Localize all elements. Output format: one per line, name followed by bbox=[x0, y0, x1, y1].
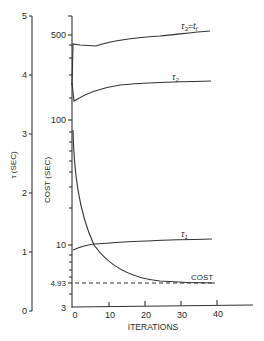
x-axis-title: ITERATIONS bbox=[128, 322, 179, 332]
cost-tick-4-93: 4.93 bbox=[50, 279, 66, 288]
series-tau3-curve bbox=[72, 31, 210, 85]
x-tick-20: 20 bbox=[141, 310, 151, 320]
series-label-cost: COST bbox=[191, 273, 213, 282]
tau-tick-2: 2 bbox=[22, 188, 27, 198]
cost-tick-500: 500 bbox=[51, 30, 66, 40]
tau-tick-0: 0 bbox=[22, 306, 27, 316]
x-tick-10: 10 bbox=[105, 310, 115, 320]
tau-tick-5: 5 bbox=[22, 11, 27, 21]
cost-tick-100: 100 bbox=[51, 115, 66, 125]
x-axis bbox=[72, 300, 253, 307]
cost-axis-title: COST (SEC) bbox=[43, 157, 52, 203]
series-cost-curve bbox=[73, 130, 215, 283]
x-tick-0: 0 bbox=[72, 310, 77, 320]
cost-tick-labels: 500 100 10 4.93 3 bbox=[50, 30, 66, 313]
x-tick-30: 30 bbox=[177, 310, 187, 320]
cost-axis bbox=[68, 16, 72, 308]
series-label-tau3: τ3=tf bbox=[181, 21, 198, 32]
series-tau2-curve bbox=[72, 81, 211, 101]
x-tick-40: 40 bbox=[213, 309, 223, 319]
tau-tick-1: 1 bbox=[22, 247, 27, 257]
cost-tick-10: 10 bbox=[56, 240, 66, 250]
x-tick-labels: 0 10 20 30 40 bbox=[72, 309, 223, 320]
series-label-tau1: τ1 bbox=[181, 229, 188, 240]
tau-tick-4: 4 bbox=[22, 70, 27, 80]
tau-tick-labels: 0 1 2 3 4 5 bbox=[22, 11, 27, 316]
tau-tick-3: 3 bbox=[22, 129, 27, 139]
tau-axis bbox=[29, 16, 32, 311]
tau-axis-title: τ (SEC) bbox=[9, 151, 18, 178]
optimization-chart: 0 1 2 3 4 5 τ (SEC) 500 100 10 bbox=[0, 0, 264, 341]
cost-tick-3: 3 bbox=[61, 303, 66, 313]
series-label-tau2: τ2 bbox=[172, 72, 179, 83]
